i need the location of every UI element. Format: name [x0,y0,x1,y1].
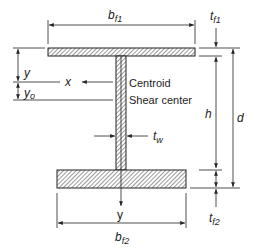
label-d: d [237,111,244,125]
label-x-axis: x [64,75,72,89]
label-tf1: tf1 [210,9,221,25]
dimension-d [190,49,240,188]
label-yo: yo [23,86,35,101]
bottom-flange [57,170,186,188]
dimension-tf1 [199,28,240,67]
label-bf2: bf2 [115,230,129,246]
label-centroid: Centroid [129,77,171,89]
label-h: h [205,107,212,121]
label-bf1: bf1 [108,8,122,24]
label-y-axis: y [117,208,123,222]
cross-section [48,48,195,188]
label-shear-center: Shear center [129,94,192,106]
label-tw: tw [153,129,163,145]
label-tf2: tf2 [209,211,220,227]
top-flange [48,48,195,56]
label-y-distance: y [23,66,31,80]
i-section-diagram: bf1 tf1 h d tf2 tw y yo [0,0,257,251]
